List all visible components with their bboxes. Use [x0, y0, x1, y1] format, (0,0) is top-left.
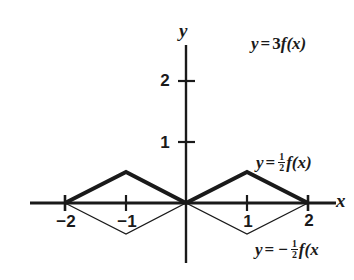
x-tick-label-pos2: 2	[299, 211, 319, 231]
annotation-neghalf-func: f(x	[299, 240, 319, 259]
fraction-one-half: 12	[278, 152, 285, 174]
annotation-3f-coefficient: 3	[272, 34, 281, 53]
annotation-half-func: f(x)	[286, 153, 311, 172]
annotation-neghalf-sign: −	[276, 240, 290, 259]
annotation-y-equals-half-fx: y=12f(x)	[256, 152, 312, 174]
annotation-neghalf-lhs: y	[255, 240, 263, 259]
y-tick-label-1: 1	[156, 133, 174, 153]
annotation-y-equals-neg-half-fx: y=−12f(x	[255, 239, 319, 261]
annotation-y-equals-3fx: y=3f(x)	[251, 35, 306, 52]
x-axis-label: x	[336, 190, 346, 212]
fraction-denominator: 2	[278, 163, 285, 173]
y-axis-label: y	[179, 20, 187, 42]
annotation-half-lhs: y	[256, 153, 264, 172]
annotation-half-equals: =	[264, 153, 278, 172]
fraction-one-half-negative: 12	[291, 239, 298, 261]
annotation-3f-func: f(x)	[281, 34, 306, 53]
annotation-3f-lhs: y	[251, 34, 259, 53]
x-tick-label-pos1: 1	[238, 212, 258, 232]
x-tick-label-neg1: −1	[113, 212, 141, 232]
y-tick-label-2: 2	[156, 71, 174, 91]
annotation-3f-equals: =	[259, 34, 273, 53]
graph-figure: y x −2 −1 1 2 1 2 y=3f(x) y=12f(x) y=−12…	[0, 0, 354, 280]
x-tick-label-neg2: −2	[52, 212, 80, 232]
annotation-neghalf-equals: =	[263, 240, 277, 259]
fraction-denominator-neg: 2	[291, 250, 298, 260]
